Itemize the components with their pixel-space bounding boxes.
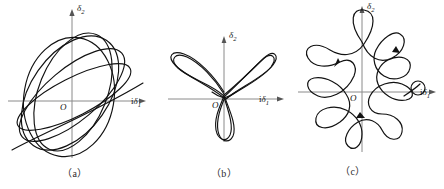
panel-c-plot xyxy=(296,0,444,165)
panel-c-origin-label: O xyxy=(350,93,357,103)
panel-b-y-arrowhead xyxy=(222,36,227,43)
panel-c-caption: （c） xyxy=(340,163,366,178)
panel-a-x-axis-label: iδ1 xyxy=(131,96,141,108)
panel-b-y-axis-label: δ2 xyxy=(229,30,236,42)
panel-a-plot xyxy=(0,0,150,165)
panel-c-axes xyxy=(298,10,432,152)
panel-b-x-axis-label: iδ1 xyxy=(259,94,269,106)
panel-a-y-arrowhead xyxy=(69,9,74,16)
panel-b-caption: （b） xyxy=(150,165,298,180)
panel-c-direction-arrowheads xyxy=(334,46,400,118)
figure-three-panel-phase-portraits: iδ1 δ2 O （a） iδ1 δ2 O （b） xyxy=(0,0,444,189)
panel-a-y-axis-label: δ2 xyxy=(77,3,84,15)
panel-c-curves xyxy=(306,10,425,149)
panel-c-x-arrowhead xyxy=(429,90,436,95)
panel-a-axes xyxy=(8,13,142,158)
panel-a-origin-label: O xyxy=(60,102,67,112)
panel-c-y-axis-label: δ2 xyxy=(367,1,374,13)
panel-b-origin-label: O xyxy=(212,100,219,110)
panel-c: iδ1 δ2 O （c） xyxy=(296,0,444,189)
panel-a-caption: （a） xyxy=(0,165,150,180)
panel-c-x-axis-label: iδ1 xyxy=(420,87,430,99)
panel-b: iδ1 δ2 O （b） xyxy=(150,0,298,189)
panel-b-plot xyxy=(150,0,298,165)
panel-b-x-arrowhead xyxy=(277,97,284,102)
panel-a: iδ1 δ2 O （a） xyxy=(0,0,150,189)
